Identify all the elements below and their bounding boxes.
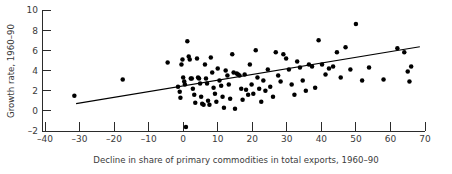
data-point (338, 75, 343, 80)
data-point (222, 106, 227, 111)
data-point (300, 78, 305, 83)
data-point (214, 100, 219, 105)
data-point (184, 125, 189, 130)
data-point (244, 87, 249, 92)
x-axis-tick-label: 40 (316, 134, 328, 144)
data-point (409, 64, 414, 69)
data-point (304, 88, 309, 93)
data-point (233, 107, 238, 112)
data-point (180, 57, 185, 62)
y-axis-tick-label: 4 (32, 66, 38, 76)
data-point (348, 67, 353, 72)
data-point (197, 76, 202, 81)
data-point (402, 50, 407, 55)
x-axis-title: Decline in share of primary commodities … (93, 155, 378, 165)
data-point (220, 94, 225, 99)
data-point (271, 94, 276, 99)
data-point (165, 60, 170, 65)
data-point (259, 100, 264, 105)
data-point (257, 86, 262, 91)
data-point (274, 50, 279, 55)
data-point (191, 86, 196, 91)
data-point (239, 86, 244, 91)
data-point (281, 52, 286, 57)
data-point (268, 84, 273, 89)
data-point (246, 92, 251, 97)
y-axis-group: –20246810 (27, 5, 51, 136)
data-point (331, 64, 336, 69)
data-point (227, 82, 232, 87)
data-point (240, 97, 245, 102)
data-point (201, 103, 206, 108)
y-axis-tick-label: 2 (32, 86, 38, 96)
data-point (219, 83, 224, 88)
data-point (343, 45, 348, 50)
scatter-plot-figure: –20246810 –40–30–20–10010203040506070 De… (0, 0, 452, 174)
data-point (228, 96, 233, 101)
data-point (263, 88, 268, 93)
data-point (213, 91, 218, 96)
data-point (120, 77, 125, 82)
data-point (207, 103, 212, 108)
data-point (195, 56, 200, 61)
data-point (190, 76, 195, 81)
y-axis-title: Growth rate, 1960–90 (6, 24, 16, 118)
y-axis-tick-label: 10 (27, 5, 39, 15)
data-point (249, 82, 254, 87)
data-point (367, 65, 372, 70)
data-point (278, 79, 283, 84)
data-point (223, 68, 228, 73)
data-point (261, 78, 266, 83)
data-point (209, 55, 214, 60)
data-point (178, 95, 183, 100)
data-point (360, 78, 365, 83)
data-point (215, 66, 220, 71)
x-axis-tick-label: –20 (106, 134, 122, 144)
data-point (225, 73, 230, 78)
x-axis-tick-label: –40 (37, 134, 53, 144)
y-axis-tick-label: 6 (32, 46, 38, 56)
x-axis-tick-label: 60 (385, 134, 397, 144)
x-axis-tick-label: 0 (180, 134, 186, 144)
y-axis-tick-label: 8 (32, 26, 38, 36)
x-axis-tick-label: –10 (141, 134, 157, 144)
x-axis-tick-label: 20 (247, 134, 259, 144)
data-point (405, 69, 410, 74)
data-point (292, 92, 297, 97)
data-point (204, 76, 209, 81)
data-point (206, 99, 211, 104)
data-point (255, 75, 260, 80)
data-point (276, 73, 281, 78)
data-point (193, 101, 198, 106)
x-axis-group: –40–30–20–10010203040506070 (37, 122, 431, 144)
data-point (251, 91, 256, 96)
data-point (295, 59, 300, 64)
x-axis-tick-label: 50 (350, 134, 362, 144)
data-point (192, 92, 197, 97)
y-axis-tick-label: 0 (32, 106, 38, 116)
data-point (335, 50, 340, 55)
data-point (185, 39, 190, 44)
data-point (316, 38, 321, 43)
data-point (407, 79, 412, 84)
data-point (381, 77, 386, 82)
data-point (230, 52, 235, 57)
data-point (181, 75, 186, 80)
data-point (313, 85, 318, 90)
data-point (179, 62, 184, 67)
data-point (177, 89, 182, 94)
data-point (327, 66, 332, 71)
data-point (188, 57, 193, 62)
x-axis-tick-label: 70 (419, 134, 431, 144)
data-point (284, 56, 289, 61)
x-axis-tick-label: 30 (281, 134, 293, 144)
data-point (248, 62, 253, 67)
data-point (203, 62, 208, 67)
data-point (354, 22, 359, 27)
chart-canvas: –20246810 –40–30–20–10010203040506070 De… (0, 0, 452, 174)
data-point (253, 48, 257, 53)
x-axis-tick-label: 10 (212, 134, 224, 144)
data-point (211, 85, 216, 90)
data-point (210, 70, 215, 75)
data-point (289, 82, 294, 87)
